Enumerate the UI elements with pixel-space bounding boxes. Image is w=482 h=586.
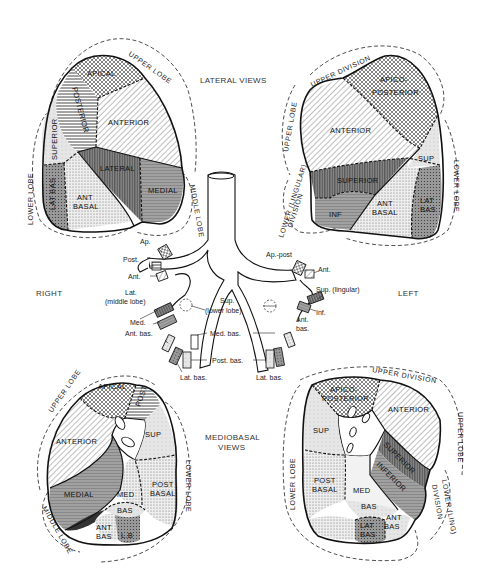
- label-med: MED: [353, 486, 371, 495]
- label-bronchus-post: Post.: [123, 256, 139, 263]
- bronchus-right-superior-lower: [180, 299, 192, 311]
- left-label: LEFT: [398, 289, 419, 298]
- bronchus-left-lat-bas: [273, 347, 284, 366]
- label-bronchus-ant-left: Ant.: [318, 266, 331, 273]
- bronchus-right-ant-bas: [162, 334, 175, 351]
- label-post-basal-2: BASAL: [150, 489, 176, 498]
- label-ant-bas-2: BAS: [96, 532, 112, 541]
- label-ant-bas-1: ANT: [96, 523, 112, 532]
- lateral-left-lung: APICO- POSTERIOR ANTERIOR SUP SUPERIOR I…: [277, 46, 460, 246]
- label-lower-lobe: LOWER LOBE: [289, 458, 296, 510]
- label-ant-basal-1: ANT: [77, 193, 93, 202]
- mediobasal-views-title-line2: VIEWS: [218, 443, 245, 452]
- label-bronchus-lat-1: Lat.: [125, 289, 137, 296]
- leader: [140, 310, 158, 319]
- label-bronchus-sup-1: Sup.: [220, 297, 234, 305]
- label-bronchus-ant-bas-left-2: bas.: [296, 325, 309, 332]
- label-ant-basal-2: BASAL: [73, 202, 99, 211]
- label-lat-bas-2: BAS: [420, 205, 436, 214]
- label-bronchus-lat-bas-right: Lat. bas.: [180, 374, 207, 381]
- bronchus-right-post-bas: [183, 352, 191, 368]
- label-apico: APICO-: [330, 385, 358, 394]
- label-lb: L.B: [121, 531, 133, 540]
- label-posterior: POSTERIOR: [372, 88, 419, 97]
- leader: [192, 306, 205, 310]
- label-lat-bas-1: LAT: [360, 521, 374, 530]
- label-bas: BAS: [361, 502, 377, 511]
- label-post-basal-1: POST: [152, 480, 174, 489]
- label-anterior: ANTERIOR: [388, 405, 429, 414]
- label-ant-bas-1: ANT: [386, 513, 402, 522]
- bronchus-right-lateral-middle: [154, 303, 174, 318]
- bronchus-right-lat-bas: [169, 347, 183, 365]
- right-label: RIGHT: [36, 289, 62, 298]
- trachea-top: [208, 173, 234, 179]
- segment-post-basal-lower: [308, 516, 355, 540]
- label-bronchus-ant-bas-left-1: Ant.: [296, 316, 309, 323]
- label-bronchus-inf: Inf.: [316, 309, 326, 316]
- label-sup: SUP: [418, 154, 434, 163]
- label-ant-basal-1: ANT: [377, 199, 393, 208]
- label-bronchus-sup-lingular: Sup. (lingular): [316, 286, 360, 294]
- label-bronchus-ap-post: Ap.-post: [266, 251, 292, 259]
- label-lat-bas: LAT BAS: [48, 178, 57, 210]
- label-bronchus-sup-2: (lower lobe): [205, 307, 242, 315]
- label-anterior: ANTERIOR: [108, 118, 149, 127]
- mediobasal-views-title-line1: MEDIOBASAL: [205, 433, 260, 442]
- label-bronchus-med-bas: Med. bas.: [210, 330, 241, 337]
- label-lat-bas-1: LAT: [420, 196, 434, 205]
- label-bronchus-lat-bas-left: Lat. bas.: [256, 374, 283, 381]
- bronchus-left-apico-posterior: [292, 260, 306, 275]
- label-lower-lobe: LOWER LOBE: [185, 460, 192, 512]
- label-post-basal-2: BASAL: [312, 485, 338, 494]
- label-med: MED: [117, 490, 135, 499]
- label-bronchus-lat-2: (middle lobe): [105, 298, 145, 306]
- bronchus-right-med-bas: [191, 335, 198, 349]
- bronchus-left-post-bas: [266, 350, 274, 368]
- bronchus-right-medial: [157, 315, 177, 330]
- label-upper-lobe: UPPER LOBE: [282, 101, 298, 152]
- label-apical: APICAL: [87, 69, 115, 78]
- label-lower-lobe: LOWER LOBE: [453, 160, 460, 212]
- label-superior: SUPERIOR: [337, 176, 379, 185]
- label-anterior: ANTERIOR: [56, 437, 97, 446]
- label-bronchus-ant-right: Ant.: [128, 273, 141, 280]
- label-lat-bas-2: BAS: [360, 530, 376, 539]
- leader: [177, 363, 182, 372]
- bronchopulmonary-segments-diagram: LATERAL VIEWS RIGHT LEFT MEDIOBASAL VIEW…: [0, 0, 482, 586]
- bronchus-right-apical: [158, 244, 173, 259]
- label-apical: APICAL: [98, 382, 126, 391]
- mediobasal-left-lung: APICO- POSTERIOR ANTERIOR SUP SUPERIOR I…: [283, 366, 464, 561]
- bronchus-left-anterior: [305, 270, 314, 278]
- label-anterior: ANTERIOR: [330, 126, 371, 135]
- label-sup: SUP: [145, 430, 161, 439]
- label-posterior: POSTERIOR: [322, 394, 369, 403]
- label-medial: MEDIAL: [64, 490, 94, 499]
- label-inf: INF: [329, 210, 342, 219]
- label-bronchus-med: Med.: [130, 319, 146, 326]
- label-lateral: LATERAL: [100, 164, 135, 173]
- mediobasal-right-lung: APICAL POST ANTERIOR SUP MEDIAL MED BAS …: [37, 368, 192, 562]
- label-medial: MEDIAL: [148, 186, 178, 195]
- label-bronchus-post-bas: Post. bas.: [212, 357, 243, 364]
- label-division: DIVISION: [431, 484, 444, 520]
- label-superior: SUPERIOR: [50, 118, 59, 160]
- label-sup: SUP: [313, 426, 329, 435]
- label-bas: BAS: [117, 506, 133, 515]
- label-post-basal-1: POST: [314, 476, 336, 485]
- bronchus-left-ant-bas: [284, 332, 295, 348]
- label-bronchus-ant-bas-right: Ant. bas.: [125, 330, 153, 337]
- right-upper-branch: [138, 258, 150, 272]
- lateral-right-lung: APICAL POSTERIOR ANTERIOR SUPERIOR LATER…: [27, 39, 205, 238]
- label-ant-bas-2: BAS: [384, 522, 400, 531]
- label-bronchus-ap: Ap.: [140, 238, 151, 246]
- lateral-views-title: LATERAL VIEWS: [200, 76, 267, 85]
- label-lower-lobe: LOWER LOBE: [27, 173, 34, 225]
- label-ant-basal-2: BASAL: [372, 208, 398, 217]
- label-upper-lobe: UPPER LOBE: [457, 412, 464, 463]
- label-apico: APICO-: [380, 75, 408, 84]
